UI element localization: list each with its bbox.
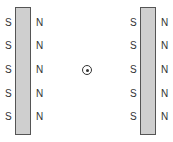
left_magnet-south-label: S (5, 112, 12, 122)
left_magnet-south-label: S (5, 65, 12, 75)
right_magnet-south-label: S (130, 18, 137, 28)
left_magnet-north-label: N (36, 89, 43, 99)
right_magnet-south-label: S (130, 41, 137, 51)
left_magnet-north-label: N (36, 41, 43, 51)
left_magnet-north-label: N (36, 112, 43, 122)
left-magnet (15, 7, 31, 135)
right_magnet-north-label: N (161, 18, 168, 28)
right_magnet-north-label: N (161, 89, 168, 99)
out-of-page-dot-icon (82, 65, 92, 75)
left_magnet-north-label: N (36, 65, 43, 75)
right_magnet-south-label: S (130, 89, 137, 99)
right_magnet-north-label: N (161, 112, 168, 122)
left_magnet-north-label: N (36, 18, 43, 28)
right_magnet-south-label: S (130, 65, 137, 75)
right_magnet-north-label: N (161, 41, 168, 51)
left_magnet-south-label: S (5, 18, 12, 28)
right_magnet-south-label: S (130, 112, 137, 122)
left_magnet-south-label: S (5, 89, 12, 99)
right_magnet-north-label: N (161, 65, 168, 75)
right-magnet (140, 7, 156, 135)
left_magnet-south-label: S (5, 41, 12, 51)
